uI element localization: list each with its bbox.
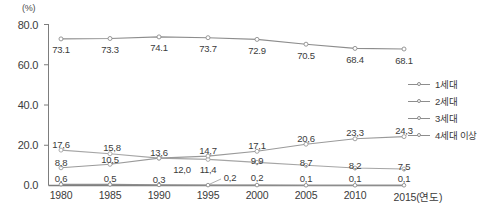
point-label-gen2-2010: 23,3 xyxy=(346,127,363,138)
point-label-gen3-1980: 17,6 xyxy=(52,139,69,150)
callout-leader-line xyxy=(210,179,221,184)
x-tick-2010: 2010 xyxy=(344,189,367,201)
point-label-gen1-1980: 73.1 xyxy=(52,44,69,55)
legend-label-gen2: 2세대 xyxy=(435,94,457,108)
point-label-gen3-2010: 8,2 xyxy=(349,160,361,171)
point-label-gen1-1985: 73.3 xyxy=(101,44,118,55)
point-label-gen2-1995: 14,7 xyxy=(199,145,216,156)
chart-legend: 1세대 2세대 3세대 4세대 이상 xyxy=(408,76,477,144)
point-label-gen2-1990: 13,6 xyxy=(150,147,167,158)
point-label-gen4-2000: 0,2 xyxy=(251,172,263,183)
legend-marker-icon xyxy=(408,130,430,140)
legend-item-gen4[interactable]: 4세대 이상 xyxy=(408,127,477,143)
legend-label-gen4: 4세대 이상 xyxy=(435,128,477,142)
generation-composition-line-chart: (%) 80.0 60.0 40.0 20.0 0.0 xyxy=(0,0,503,210)
point-label-gen4-1980: 0,6 xyxy=(55,173,67,184)
point-label-gen1-1995: 73.7 xyxy=(199,43,216,54)
x-tick-1995: 1995 xyxy=(197,189,220,201)
point-label-gen4-1995: 0,2 xyxy=(224,172,236,183)
legend-marker-icon xyxy=(408,96,430,106)
x-tick-1985: 1985 xyxy=(99,189,122,201)
point-label-gen3-1990: 12,0 xyxy=(173,164,190,175)
point-label-gen4-2010: 0,1 xyxy=(349,173,361,184)
point-label-gen3-1985: 15,8 xyxy=(103,142,120,153)
x-tick-1990: 1990 xyxy=(148,189,171,201)
legend-marker-icon xyxy=(408,113,430,123)
point-label-gen4-1990: 0,3 xyxy=(153,174,165,185)
point-label-gen1-2015: 68.1 xyxy=(395,55,412,66)
series-line-gen4 xyxy=(61,184,404,185)
point-label-gen2-2000: 17,1 xyxy=(248,140,265,151)
point-label-gen1-1990: 74.1 xyxy=(150,42,167,53)
point-label-gen4-1985: 0,5 xyxy=(104,173,116,184)
x-tick-2005: 2005 xyxy=(295,189,318,201)
legend-item-gen3[interactable]: 3세대 xyxy=(408,110,477,126)
point-label-gen3-2000: 9,9 xyxy=(251,155,263,166)
point-label-gen2-1980: 8,8 xyxy=(55,157,67,168)
point-label-gen2-1985: 10,5 xyxy=(101,154,118,165)
point-label-gen4-2005: 0,1 xyxy=(300,173,312,184)
point-label-gen4-2015: 0,1 xyxy=(398,173,410,184)
legend-label-gen1: 1세대 xyxy=(435,77,457,91)
legend-label-gen3: 3세대 xyxy=(435,111,457,125)
legend-item-gen1[interactable]: 1세대 xyxy=(408,76,477,92)
point-label-gen1-2005: 70.5 xyxy=(297,50,314,61)
point-label-gen2-2005: 20,6 xyxy=(297,133,314,144)
x-tick-1980: 1980 xyxy=(50,189,73,201)
legend-marker-icon xyxy=(408,79,430,89)
x-tick-2015: 2015(연도) xyxy=(394,189,443,204)
point-label-gen1-2010: 68.4 xyxy=(346,54,363,65)
x-tick-2000: 2000 xyxy=(246,189,269,201)
legend-item-gen2[interactable]: 2세대 xyxy=(408,93,477,109)
point-label-gen3-2015: 7,5 xyxy=(398,161,410,172)
point-label-gen1-2000: 72.9 xyxy=(248,45,265,56)
point-label-gen3-2005: 8,7 xyxy=(300,157,312,168)
point-label-gen3-1995: 11,4 xyxy=(200,164,217,175)
